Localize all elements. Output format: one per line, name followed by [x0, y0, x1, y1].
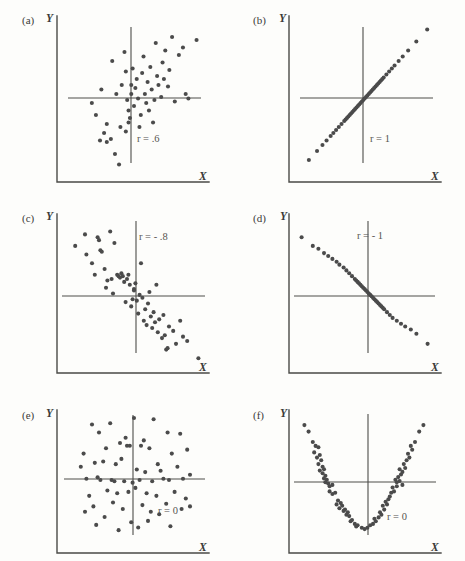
data-point — [98, 478, 102, 482]
data-point — [414, 39, 418, 43]
data-point — [354, 524, 358, 528]
data-point — [166, 84, 170, 88]
data-point — [135, 299, 139, 303]
data-point — [105, 122, 109, 126]
data-point — [110, 277, 114, 281]
data-point — [391, 485, 395, 489]
data-point — [153, 320, 157, 324]
data-point — [161, 477, 165, 481]
data-point — [154, 283, 158, 287]
data-point — [131, 481, 135, 485]
data-point — [157, 512, 161, 516]
data-point — [111, 500, 115, 504]
data-point — [139, 113, 143, 117]
data-point — [330, 257, 334, 261]
panel-f-dots — [302, 423, 425, 531]
data-point — [311, 440, 315, 444]
data-point — [147, 446, 151, 450]
data-point — [133, 86, 137, 90]
data-point — [115, 491, 119, 495]
data-point — [103, 267, 107, 271]
data-point — [135, 467, 139, 471]
data-point — [143, 470, 147, 474]
data-point — [393, 63, 397, 67]
data-point — [150, 479, 154, 483]
data-point — [119, 457, 123, 461]
panel-c-dots — [73, 229, 200, 360]
data-point — [140, 503, 144, 507]
data-point — [155, 74, 159, 78]
data-point — [410, 448, 414, 452]
data-point — [164, 502, 168, 506]
data-point — [181, 45, 185, 49]
panel-a: (a) Y X r = .6 — [0, 0, 232, 192]
data-point — [120, 83, 124, 87]
data-point — [124, 129, 128, 133]
data-point — [316, 445, 320, 449]
data-point — [196, 356, 200, 360]
data-point — [150, 87, 154, 91]
data-point — [141, 54, 145, 58]
data-point — [136, 96, 140, 100]
data-point — [178, 319, 182, 323]
data-point — [84, 477, 88, 481]
data-point — [122, 479, 126, 483]
data-point — [154, 494, 158, 498]
data-point — [97, 430, 101, 434]
data-point — [409, 327, 413, 331]
panel-d-dots — [300, 235, 430, 346]
data-point — [156, 462, 160, 466]
data-point — [79, 465, 83, 469]
panel-c-plot — [0, 188, 232, 380]
data-point — [83, 232, 87, 236]
data-point — [180, 507, 184, 511]
panel-a-dots — [90, 35, 199, 167]
data-point — [188, 504, 192, 508]
data-point — [335, 502, 339, 506]
data-point — [378, 510, 382, 514]
data-point — [137, 125, 141, 129]
data-point — [342, 509, 346, 513]
data-point — [83, 510, 87, 514]
data-point — [136, 525, 140, 529]
data-point — [98, 138, 102, 142]
data-point — [133, 486, 137, 490]
data-point — [166, 430, 170, 434]
data-point — [129, 92, 133, 96]
data-point — [110, 59, 114, 63]
data-point — [161, 60, 165, 64]
data-point — [395, 484, 399, 488]
data-point — [316, 462, 320, 466]
data-point — [170, 452, 174, 456]
data-point — [108, 421, 112, 425]
panel-d-axes — [289, 214, 441, 373]
data-point — [185, 339, 189, 343]
data-point — [184, 92, 188, 96]
data-point — [146, 519, 150, 523]
data-point — [139, 261, 143, 265]
data-point — [151, 120, 155, 124]
data-point — [391, 316, 395, 320]
data-point — [398, 479, 402, 483]
data-point — [90, 101, 94, 105]
data-point — [388, 495, 392, 499]
data-point — [104, 446, 108, 450]
data-point — [157, 317, 161, 321]
data-point — [108, 229, 112, 233]
data-point — [82, 452, 86, 456]
data-point — [401, 54, 405, 58]
data-point — [126, 273, 130, 277]
data-point — [113, 152, 117, 156]
data-point — [167, 478, 171, 482]
panel-f-plot — [232, 378, 465, 561]
data-point — [312, 450, 316, 454]
data-point — [109, 137, 113, 141]
data-point — [94, 113, 98, 117]
data-point — [322, 251, 326, 255]
data-point — [146, 80, 150, 84]
data-point — [195, 38, 199, 42]
data-point — [372, 517, 376, 521]
data-point — [181, 477, 185, 481]
data-point — [161, 313, 165, 317]
data-point — [184, 496, 188, 500]
